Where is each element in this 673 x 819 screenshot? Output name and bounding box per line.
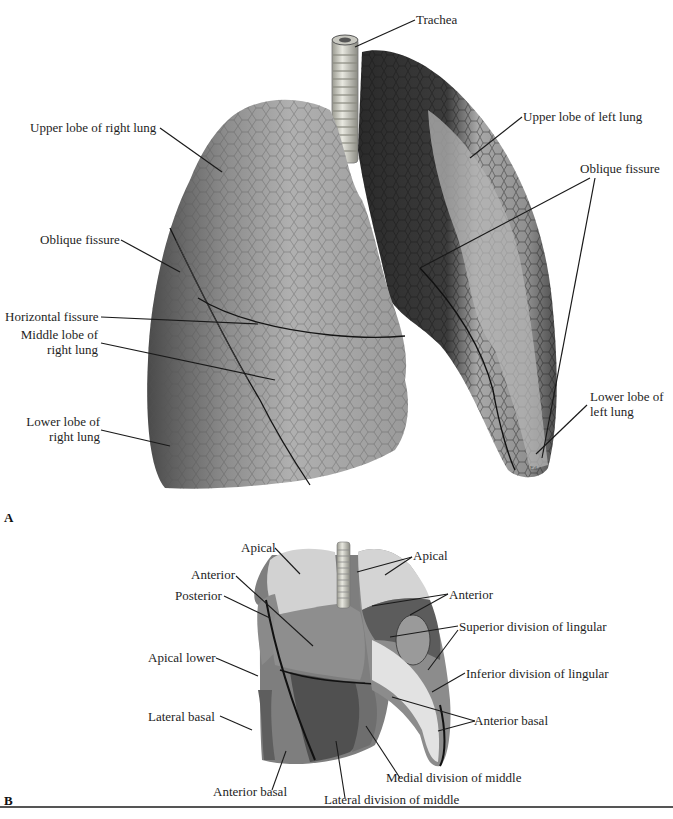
panel-a-drawing bbox=[147, 35, 557, 489]
label-anterior-left: Anterior bbox=[449, 587, 493, 602]
label-apical-lower: Apical lower bbox=[148, 650, 216, 665]
panel-b-drawing bbox=[254, 542, 450, 766]
label-line-1: Lower lobe of bbox=[590, 389, 664, 404]
label-lateral-division-middle: Lateral division of middle bbox=[324, 792, 459, 807]
label-upper-lobe-left-lung: Upper lobe of left lung bbox=[523, 109, 642, 124]
label-trachea: Trachea bbox=[416, 12, 457, 27]
label-posterior: Posterior bbox=[175, 588, 222, 603]
label-horizontal-fissure: Horizontal fissure bbox=[5, 309, 99, 324]
lung-anatomy-figure: Trachea Upper lobe of right lung Upper l… bbox=[0, 0, 673, 819]
label-oblique-fissure-right: Oblique fissure bbox=[40, 232, 120, 247]
panel-letter-a: A bbox=[4, 510, 13, 526]
label-anterior-basal-left: Anterior basal bbox=[474, 713, 548, 728]
label-lateral-basal: Lateral basal bbox=[148, 709, 215, 724]
label-superior-division-lingular: Superior division of lingular bbox=[459, 619, 607, 634]
label-line-1: Lower lobe of bbox=[10, 414, 100, 429]
label-apical-right: Apical bbox=[241, 540, 276, 555]
artist-signature: Ed. bbox=[530, 465, 538, 471]
label-line-2: right lung bbox=[15, 342, 98, 357]
label-line-2: right lung bbox=[10, 429, 100, 444]
label-upper-lobe-right-lung: Upper lobe of right lung bbox=[30, 120, 156, 135]
label-anterior-basal-right: Anterior basal bbox=[213, 784, 287, 799]
label-middle-lobe-right-lung: Middle lobe of right lung bbox=[15, 327, 98, 357]
label-line-1: Middle lobe of bbox=[15, 327, 98, 342]
label-line-2: left lung bbox=[590, 404, 664, 419]
label-lower-lobe-left-lung: Lower lobe of left lung bbox=[590, 389, 664, 419]
label-lower-lobe-right-lung: Lower lobe of right lung bbox=[10, 414, 100, 444]
label-inferior-division-lingular: Inferior division of lingular bbox=[466, 666, 609, 681]
caption-divider bbox=[0, 806, 673, 808]
label-medial-division-middle: Medial division of middle bbox=[386, 770, 521, 785]
label-apical-left: Apical bbox=[413, 548, 448, 563]
label-anterior-right: Anterior bbox=[191, 567, 235, 582]
label-oblique-fissure-left: Oblique fissure bbox=[580, 161, 660, 176]
